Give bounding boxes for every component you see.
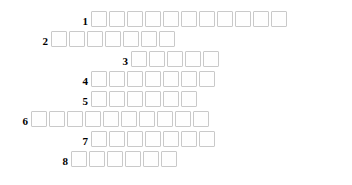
puzzle-cell[interactable] bbox=[145, 131, 161, 147]
puzzle-cell[interactable] bbox=[161, 151, 177, 167]
row-cells bbox=[131, 51, 219, 71]
puzzle-cell[interactable] bbox=[87, 31, 103, 47]
puzzle-cell[interactable] bbox=[91, 91, 107, 107]
row-cells bbox=[51, 31, 175, 51]
puzzle-cell[interactable] bbox=[109, 91, 125, 107]
row-number-label: 8 bbox=[52, 151, 68, 171]
puzzle-cell[interactable] bbox=[109, 131, 125, 147]
puzzle-cell[interactable] bbox=[185, 51, 201, 67]
puzzle-cell[interactable] bbox=[89, 151, 105, 167]
puzzle-cell[interactable] bbox=[181, 131, 197, 147]
puzzle-cell[interactable] bbox=[139, 111, 155, 127]
puzzle-cell[interactable] bbox=[199, 131, 215, 147]
puzzle-cell[interactable] bbox=[163, 131, 179, 147]
row-number-label: 6 bbox=[12, 111, 28, 131]
puzzle-cell[interactable] bbox=[145, 11, 161, 27]
crossword-puzzle-grid: 12345678 bbox=[0, 0, 352, 185]
puzzle-cell[interactable] bbox=[203, 51, 219, 67]
puzzle-cell[interactable] bbox=[123, 31, 139, 47]
row-cells bbox=[91, 91, 197, 111]
row-cells bbox=[91, 11, 287, 31]
puzzle-cell[interactable] bbox=[199, 71, 215, 87]
puzzle-cell[interactable] bbox=[109, 71, 125, 87]
puzzle-cell[interactable] bbox=[181, 91, 197, 107]
puzzle-cell[interactable] bbox=[181, 71, 197, 87]
puzzle-cell[interactable] bbox=[69, 31, 85, 47]
puzzle-cell[interactable] bbox=[235, 11, 251, 27]
puzzle-cell[interactable] bbox=[109, 11, 125, 27]
puzzle-cell[interactable] bbox=[163, 71, 179, 87]
puzzle-cell[interactable] bbox=[159, 31, 175, 47]
puzzle-cell[interactable] bbox=[107, 151, 123, 167]
row-cells bbox=[71, 151, 177, 171]
row-cells bbox=[91, 131, 215, 151]
puzzle-cell[interactable] bbox=[141, 31, 157, 47]
puzzle-cell[interactable] bbox=[143, 151, 159, 167]
puzzle-cell[interactable] bbox=[193, 111, 209, 127]
puzzle-cell[interactable] bbox=[175, 111, 191, 127]
puzzle-cell[interactable] bbox=[49, 111, 65, 127]
puzzle-cell[interactable] bbox=[125, 151, 141, 167]
puzzle-cell[interactable] bbox=[31, 111, 47, 127]
row-number-label: 7 bbox=[72, 131, 88, 151]
puzzle-cell[interactable] bbox=[91, 11, 107, 27]
puzzle-cell[interactable] bbox=[127, 91, 143, 107]
row-cells bbox=[31, 111, 209, 131]
puzzle-cell[interactable] bbox=[149, 51, 165, 67]
row-number-label: 4 bbox=[72, 71, 88, 91]
puzzle-cell[interactable] bbox=[145, 91, 161, 107]
puzzle-cell[interactable] bbox=[67, 111, 83, 127]
puzzle-cell[interactable] bbox=[127, 131, 143, 147]
puzzle-cell[interactable] bbox=[253, 11, 269, 27]
puzzle-cell[interactable] bbox=[91, 131, 107, 147]
puzzle-cell[interactable] bbox=[157, 111, 173, 127]
puzzle-cell[interactable] bbox=[127, 11, 143, 27]
puzzle-cell[interactable] bbox=[131, 51, 147, 67]
puzzle-cell[interactable] bbox=[91, 71, 107, 87]
row-number-label: 3 bbox=[112, 51, 128, 71]
puzzle-cell[interactable] bbox=[121, 111, 137, 127]
puzzle-cell[interactable] bbox=[51, 31, 67, 47]
puzzle-cell[interactable] bbox=[217, 11, 233, 27]
row-number-label: 1 bbox=[72, 11, 88, 31]
puzzle-cell[interactable] bbox=[181, 11, 197, 27]
row-number-label: 2 bbox=[32, 31, 48, 51]
puzzle-cell[interactable] bbox=[105, 31, 121, 47]
puzzle-cell[interactable] bbox=[163, 91, 179, 107]
puzzle-cell[interactable] bbox=[71, 151, 87, 167]
puzzle-cell[interactable] bbox=[85, 111, 101, 127]
puzzle-cell[interactable] bbox=[271, 11, 287, 27]
puzzle-cell[interactable] bbox=[199, 11, 215, 27]
puzzle-cell[interactable] bbox=[163, 11, 179, 27]
puzzle-cell[interactable] bbox=[127, 71, 143, 87]
row-cells bbox=[91, 71, 215, 91]
puzzle-cell[interactable] bbox=[103, 111, 119, 127]
puzzle-cell[interactable] bbox=[145, 71, 161, 87]
row-number-label: 5 bbox=[72, 91, 88, 111]
puzzle-cell[interactable] bbox=[167, 51, 183, 67]
